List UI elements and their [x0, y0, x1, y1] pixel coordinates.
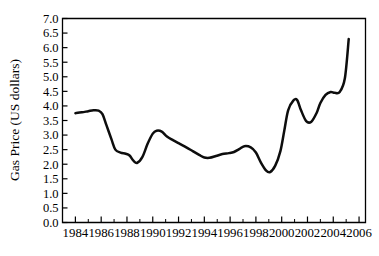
y-tick-label: 0.5	[43, 201, 59, 215]
x-tick-label: 1990	[140, 226, 166, 240]
y-tick-label: 1.0	[43, 187, 59, 201]
y-tick-label: 5.5	[43, 56, 59, 70]
y-tick-label: 4.0	[43, 99, 59, 113]
chart-figure: 0.00.51.01.52.02.53.03.54.04.55.05.56.06…	[0, 0, 379, 256]
x-tick-label: 1992	[166, 226, 192, 240]
x-tick-label: 2000	[269, 226, 295, 240]
y-tick-label: 3.5	[43, 114, 59, 128]
y-tick-label: 7.0	[43, 12, 59, 26]
x-tick-label: 1996	[217, 226, 243, 240]
y-tick-label: 1.5	[43, 172, 59, 186]
gas-price-line-chart: 0.00.51.01.52.02.53.03.54.04.55.05.56.06…	[0, 0, 379, 256]
y-tick-label: 0.0	[43, 216, 59, 230]
y-tick-label: 3.0	[43, 128, 59, 142]
y-axis-tick-labels: 0.00.51.01.52.02.53.03.54.04.55.05.56.06…	[43, 12, 59, 230]
y-tick-label: 4.5	[43, 85, 59, 99]
x-tick-label: 1998	[243, 226, 269, 240]
y-tick-label: 2.5	[43, 143, 59, 157]
x-tick-label: 2002	[295, 226, 321, 240]
y-axis-title: Gas Price (US dollars)	[7, 59, 22, 181]
y-tick-label: 6.0	[43, 41, 59, 55]
x-tick-label: 2006	[346, 226, 372, 240]
x-tick-label: 1994	[192, 226, 218, 240]
x-tick-label: 1988	[114, 226, 140, 240]
y-tick-label: 6.5	[43, 26, 59, 40]
y-tick-label: 5.0	[43, 70, 59, 84]
x-tick-label: 1984	[63, 226, 89, 240]
x-tick-label: 1986	[88, 226, 114, 240]
y-tick-label: 2.0	[43, 158, 59, 172]
x-tick-label: 2004	[320, 226, 346, 240]
x-axis-tick-labels: 1984198619881990199219941996199820002002…	[63, 226, 373, 240]
